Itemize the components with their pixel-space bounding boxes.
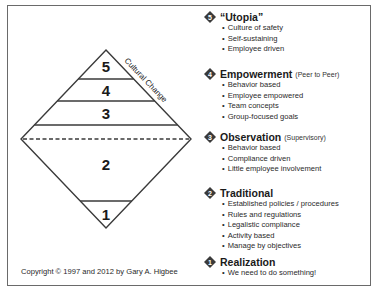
bullet-item: Established policies / procedures bbox=[222, 199, 339, 210]
copyright-text: Copyright © 1997 and 2012 by Gary A. Hig… bbox=[21, 267, 178, 276]
bullet-item: Group-focused goals bbox=[222, 112, 339, 123]
diamond-number-icon: 3 bbox=[204, 131, 216, 143]
bullet-item: Team concepts bbox=[222, 101, 339, 112]
bullet-item: Manage by objectives bbox=[222, 241, 339, 252]
stage-bullets: Culture of safety Self-sustaining Employ… bbox=[222, 23, 284, 55]
bullet-item: Culture of safety bbox=[222, 23, 284, 34]
svg-text:3: 3 bbox=[208, 134, 212, 141]
diamond-number-icon: 4 bbox=[204, 68, 216, 80]
svg-text:2: 2 bbox=[208, 190, 212, 197]
bullet-item: We need to do something! bbox=[222, 268, 316, 279]
svg-text:5: 5 bbox=[208, 14, 212, 21]
stage-bullets: Established policies / procedures Rules … bbox=[222, 199, 339, 252]
bullet-item: Compliance driven bbox=[222, 154, 326, 165]
level-2-label: 2 bbox=[102, 156, 110, 173]
bullet-item: Behavior based bbox=[222, 80, 339, 91]
level-4-label: 4 bbox=[102, 82, 111, 99]
stage-1: 1 Realization We need to do something! bbox=[204, 256, 316, 279]
stage-bullets: Behavior based Compliance driven Little … bbox=[222, 143, 326, 175]
stage-subtitle: (Supervisory) bbox=[284, 134, 326, 141]
bullet-item: Employee driven bbox=[222, 44, 284, 55]
stage-title: Traditional bbox=[220, 187, 273, 199]
bullet-item: Rules and regulations bbox=[222, 210, 339, 221]
level-5-label: 5 bbox=[102, 58, 110, 75]
bullet-item: Behavior based bbox=[222, 143, 326, 154]
stage-subtitle: (Peer to Peer) bbox=[295, 71, 339, 78]
bullet-item: Activity based bbox=[222, 231, 339, 242]
bullet-item: Self-sustaining bbox=[222, 34, 284, 45]
stage-bullets: Behavior based Employee empowered Team c… bbox=[222, 80, 339, 122]
diamond-number-icon: 1 bbox=[204, 256, 216, 268]
stage-title: “Utopia” bbox=[220, 11, 263, 23]
level-1-label: 1 bbox=[102, 206, 110, 223]
bullet-item: Little employee involvement bbox=[222, 164, 326, 175]
diamond-number-icon: 5 bbox=[204, 11, 216, 23]
stage-bullets: We need to do something! bbox=[222, 268, 316, 279]
stage-3: 3 Observation (Supervisory) Behavior bas… bbox=[204, 131, 326, 175]
diamond-number-icon: 2 bbox=[204, 187, 216, 199]
stage-2: 2 Traditional Established policies / pro… bbox=[204, 187, 339, 252]
bullet-item: Legalistic compliance bbox=[222, 220, 339, 231]
stage-title: Empowerment bbox=[220, 68, 292, 80]
svg-text:4: 4 bbox=[208, 71, 212, 78]
bullet-item: Employee empowered bbox=[222, 91, 339, 102]
svg-text:1: 1 bbox=[208, 259, 212, 266]
cultural-change-label: Cultural Change bbox=[123, 56, 170, 104]
stage-5: 5 “Utopia” Culture of safety Self-sustai… bbox=[204, 11, 284, 55]
level-3-label: 3 bbox=[102, 105, 110, 122]
stage-4: 4 Empowerment (Peer to Peer) Behavior ba… bbox=[204, 68, 339, 122]
stage-title: Observation bbox=[220, 131, 281, 143]
stage-title: Realization bbox=[220, 256, 275, 268]
